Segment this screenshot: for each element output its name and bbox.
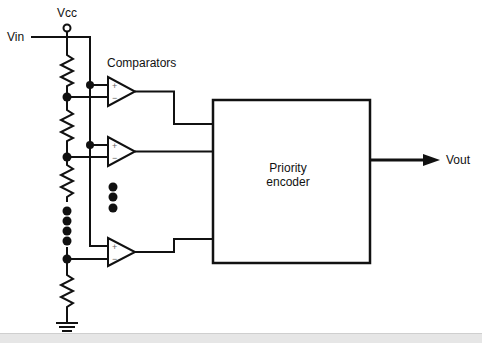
comparators-label: Comparators [107,56,176,70]
encoder-label-line1: Priority [269,161,306,175]
comparator-ellipsis-icon [109,183,118,213]
vout-label: Vout [446,153,471,167]
arrow-head-icon [423,154,440,166]
encoder-label-line2: encoder [266,175,309,189]
comparator-1-plus: + [112,81,117,91]
bottom-edge-bar [0,333,482,343]
junction-node [63,93,72,102]
resistor-4 [61,259,73,322]
comparator-2-minus: − [112,153,117,163]
ladder-ellipsis-icon [63,207,72,246]
comparator-3-plus: + [112,242,117,252]
junction-node [86,81,94,89]
junction-node [86,141,94,149]
vin-label: Vin [7,30,24,44]
vcc-label: Vcc [57,6,77,20]
comparator-2-plus: + [112,141,117,151]
junction-node [63,153,72,162]
junction-node [63,255,72,264]
resistor-3 [61,156,73,202]
comparator-1-minus: − [112,93,117,103]
ground-icon [56,323,78,331]
comparator-3 [67,238,213,266]
vcc-terminal [64,25,71,53]
comparator-3-minus: − [112,254,117,264]
